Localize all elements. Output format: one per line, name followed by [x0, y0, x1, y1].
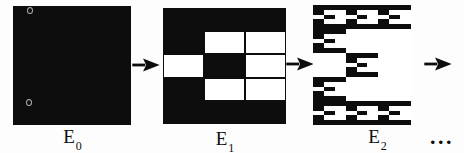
grid-cell — [313, 29, 346, 53]
grid-cell — [245, 31, 286, 54]
grid-cell — [313, 120, 324, 125]
stage-label-e1: E1 — [163, 128, 286, 153]
grid-cell — [245, 78, 286, 101]
grid-cell — [245, 8, 286, 31]
right-arrow-icon — [424, 57, 452, 71]
grid-cell — [389, 120, 400, 125]
stage-label-text: E — [368, 126, 380, 147]
grid-cell — [378, 77, 411, 101]
grid-cell — [346, 120, 357, 125]
grid-cell — [346, 77, 379, 101]
grid-cell — [204, 101, 245, 124]
stage-label-text: E — [216, 128, 228, 149]
stage-label-subscript: 1 — [228, 141, 234, 153]
grid-cell — [313, 77, 346, 101]
grid-cell — [204, 31, 245, 54]
stage-label-e0: E0 — [13, 126, 131, 153]
grid-cell — [400, 120, 411, 125]
continuation-ellipsis: ... — [421, 124, 463, 150]
grid-cell — [378, 29, 411, 53]
stage-label-e2: E2 — [328, 126, 426, 153]
grid-cell — [346, 5, 379, 29]
grid-cell — [204, 78, 245, 101]
grid-cell — [357, 120, 368, 125]
grid-cell — [346, 53, 379, 77]
self-affine-set-construction-figure: E0 E1 E2 ... — [0, 0, 464, 153]
grid-cell — [163, 8, 204, 31]
grid-cell — [335, 120, 346, 125]
grid-cell — [367, 120, 378, 125]
grid-cell — [378, 53, 411, 77]
grid-cell — [163, 78, 204, 101]
right-arrow-icon — [132, 58, 160, 72]
stage-square-e1 — [163, 8, 286, 124]
stage-label-text: E — [63, 126, 75, 147]
grid-cell — [324, 120, 335, 125]
grid-cell — [313, 53, 346, 77]
grid-cell — [163, 101, 204, 124]
grid-cell — [204, 8, 245, 31]
grid-cell — [245, 101, 286, 124]
grid-cell — [378, 120, 389, 125]
grid-cell — [163, 31, 204, 54]
grid-cell — [346, 29, 379, 53]
right-arrow-icon — [286, 57, 314, 71]
grid-cell — [378, 5, 411, 29]
scan-speck — [27, 7, 33, 14]
grid-cell — [163, 54, 204, 77]
stage-square-e2 — [313, 5, 411, 125]
stage-label-subscript: 2 — [381, 139, 387, 153]
grid-cell — [204, 54, 245, 77]
stage-label-subscript: 0 — [76, 139, 82, 153]
grid-cell — [313, 5, 346, 29]
grid-cell — [313, 101, 346, 125]
grid-cell — [346, 101, 379, 125]
stage-square-e0 — [13, 6, 131, 125]
grid-cell — [378, 101, 411, 125]
scan-speck — [26, 99, 32, 106]
grid-cell — [245, 54, 286, 77]
